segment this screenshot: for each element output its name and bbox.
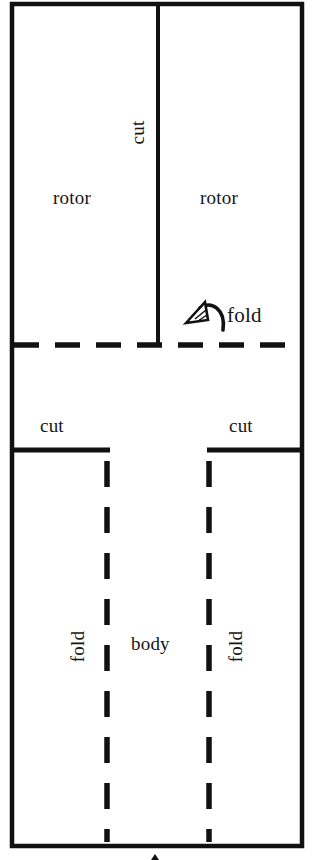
label-fold-body-right: fold bbox=[226, 625, 245, 669]
label-rotor-right: rotor bbox=[200, 188, 238, 207]
bottom-arrow-tip-icon bbox=[151, 854, 159, 860]
fold-arrow-icon bbox=[186, 302, 223, 330]
paper-helicopter-template: rotor rotor cut fold cut cut body fold f… bbox=[0, 0, 320, 860]
label-fold-arrow: fold bbox=[227, 305, 262, 326]
label-cut-top: cut bbox=[128, 109, 147, 157]
label-cut-body-right: cut bbox=[229, 416, 253, 435]
label-rotor-left: rotor bbox=[53, 188, 91, 207]
label-cut-body-left: cut bbox=[40, 416, 64, 435]
label-body: body bbox=[131, 634, 170, 653]
label-fold-body-left: fold bbox=[68, 625, 87, 669]
